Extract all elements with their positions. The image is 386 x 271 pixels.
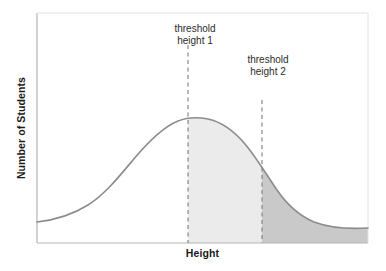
distribution-chart: threshold height 1 threshold height 2 Nu…	[0, 0, 386, 271]
y-axis-title: Number of Students	[14, 13, 28, 243]
threshold-2-annotation: threshold height 2	[218, 54, 318, 77]
threshold-2-label-line-1: threshold	[218, 54, 318, 66]
threshold-1-annotation: threshold height 1	[145, 23, 245, 46]
threshold-1-label-line-2: height 1	[145, 35, 245, 47]
threshold-2-label-line-2: height 2	[218, 66, 318, 78]
threshold-1-label-line-1: threshold	[145, 23, 245, 35]
x-axis-title: Height	[37, 247, 368, 259]
